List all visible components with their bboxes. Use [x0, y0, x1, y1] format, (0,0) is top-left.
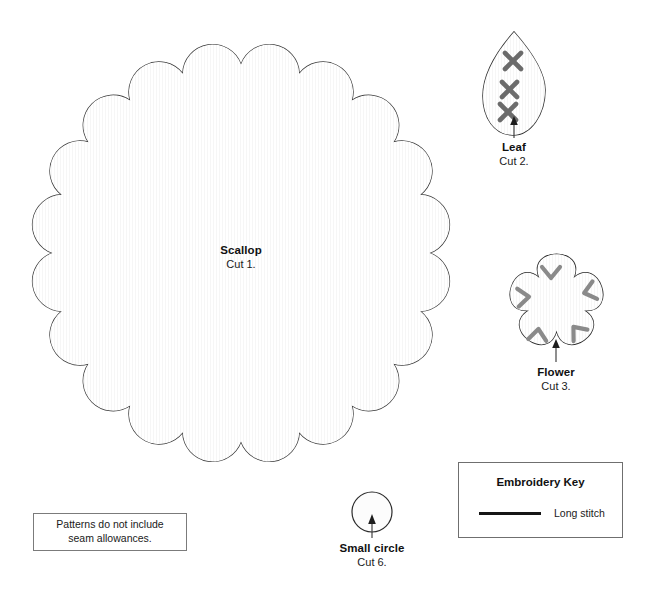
note-line-2: seam allowances.: [56, 532, 163, 546]
piece-leaf[interactable]: [483, 32, 545, 138]
seam-allowance-note-text: Patterns do not include seam allowances.: [56, 518, 163, 545]
embroidery-key-title: Embroidery Key: [459, 476, 622, 488]
piece-label-scallop: Scallop Cut 1.: [220, 244, 262, 270]
leaf-name: Leaf: [499, 141, 528, 154]
small-circle-name: Small circle: [339, 542, 404, 555]
piece-flower[interactable]: [510, 254, 603, 362]
piece-small-circle[interactable]: [352, 492, 392, 538]
flower-name: Flower: [537, 366, 575, 379]
flower-leader: [552, 339, 560, 362]
flower-cut: Cut 3.: [537, 380, 575, 392]
piece-label-flower: Flower Cut 3.: [537, 366, 575, 392]
piece-label-leaf: Leaf Cut 2.: [499, 141, 528, 167]
seam-allowance-note-box: Patterns do not include seam allowances.: [33, 513, 187, 551]
pattern-sheet: Scallop Cut 1. Leaf Cut 2. Flower Cut 3.…: [0, 0, 652, 594]
piece-label-small-circle: Small circle Cut 6.: [339, 542, 404, 568]
small-circle-cut: Cut 6.: [339, 556, 404, 568]
embroidery-key-entry-long-stitch: Long stitch: [459, 507, 622, 519]
leaf-cut: Cut 2.: [499, 155, 528, 167]
long-stitch-line-swatch: [479, 512, 541, 515]
scallop-cut: Cut 1.: [220, 258, 262, 270]
embroidery-key-box: Embroidery Key Long stitch: [458, 462, 623, 538]
note-line-1: Patterns do not include: [56, 518, 163, 532]
scallop-name: Scallop: [220, 244, 262, 257]
long-stitch-label: Long stitch: [554, 507, 605, 519]
